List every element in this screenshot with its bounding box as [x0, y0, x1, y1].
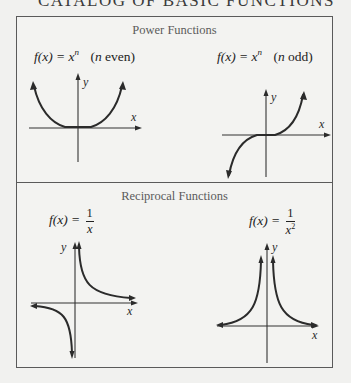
graph-power-odd: x y: [17, 17, 334, 182]
curve-arrow-right: [300, 91, 307, 100]
catalog-box: Power Functions f(x) = xn (n even) f(x) …: [16, 16, 333, 368]
curve-arrow-right-up: [271, 255, 276, 263]
y-axis-label: y: [270, 90, 277, 104]
curve-reciprocal-2-left: [221, 261, 261, 325]
y-axis-arrow: [264, 89, 269, 96]
curve-arrow-left-up: [259, 255, 264, 263]
x-axis-label: x: [318, 117, 325, 131]
curve-arrow-left: [226, 170, 232, 179]
y-axis-arrow: [265, 243, 270, 250]
y-axis-label: y: [271, 240, 278, 254]
curve-reciprocal-2-right: [273, 261, 313, 325]
x-axis-label: x: [311, 328, 318, 342]
curve-arrow-left-out: [216, 322, 223, 328]
graph-reciprocal-2: x y: [17, 183, 334, 370]
x-axis-arrow: [324, 133, 331, 138]
page-heading: CATALOG OF BASIC FUNCTIONS: [38, 0, 335, 11]
reciprocal-functions-section: Reciprocal Functions f(x) = 1x f(x) = 1x…: [17, 182, 332, 370]
power-functions-section: Power Functions f(x) = xn (n even) f(x) …: [17, 17, 332, 182]
